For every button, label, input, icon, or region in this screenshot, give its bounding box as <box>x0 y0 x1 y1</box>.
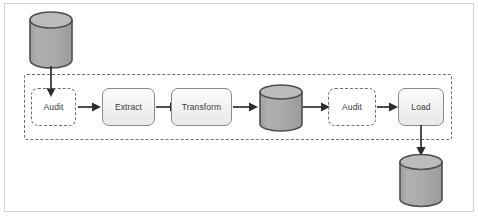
arrow-audit1-to-extract-icon <box>78 100 102 114</box>
target-database-cylinder <box>398 154 444 208</box>
arrow-staging-to-audit2-icon <box>303 100 331 114</box>
arrow-transform-to-staging-icon <box>233 100 259 114</box>
audit-node-1[interactable]: Audit <box>31 88 76 126</box>
audit-node-2[interactable]: Audit <box>328 88 376 126</box>
diagram-canvas: Audit Extract Transform <box>0 0 478 217</box>
audit-node-2-label: Audit <box>342 102 362 112</box>
load-node[interactable]: Load <box>398 88 444 126</box>
audit-node-1-label: Audit <box>44 102 64 112</box>
transform-node[interactable]: Transform <box>171 88 232 126</box>
arrow-audit2-to-load-icon <box>377 100 399 114</box>
arrow-load-to-target-icon <box>413 125 429 157</box>
staging-database-cylinder <box>258 84 304 132</box>
extract-node[interactable]: Extract <box>102 88 155 126</box>
load-node-label: Load <box>411 102 430 112</box>
transform-node-label: Transform <box>182 102 221 112</box>
extract-node-label: Extract <box>115 102 142 112</box>
source-database-cylinder <box>28 11 74 69</box>
